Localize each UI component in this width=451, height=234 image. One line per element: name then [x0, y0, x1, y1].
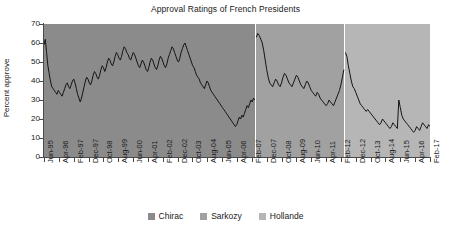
x-tick-mark	[163, 158, 164, 162]
chart-container: Approval Ratings of French Presidents Pe…	[0, 0, 451, 234]
x-tick-label: Apr-16	[418, 140, 426, 163]
x-tick-label: Jun-95	[47, 140, 55, 163]
x-tick-label: Dec-97	[92, 139, 100, 163]
x-tick-label: Oct-13	[374, 140, 382, 163]
x-tick-mark	[133, 158, 134, 162]
y-tick-mark	[39, 81, 43, 82]
x-tick-mark	[59, 158, 60, 162]
legend-label: Sarkozy	[211, 211, 242, 221]
approval-line-series	[44, 24, 430, 157]
x-tick-mark	[178, 158, 179, 162]
x-tick-label: Dec-12	[359, 139, 367, 163]
x-tick-mark	[148, 158, 149, 162]
x-tick-label: Aug-99	[121, 139, 129, 163]
x-tick-mark	[415, 158, 416, 162]
x-tick-label: Apr-11	[329, 141, 337, 163]
x-tick-mark	[222, 158, 223, 162]
legend-swatch-icon	[200, 213, 207, 220]
y-tick-label: 50	[16, 58, 40, 66]
x-tick-mark	[89, 158, 90, 162]
legend-item-chirac[interactable]: Chirac	[148, 211, 184, 221]
x-tick-label: Apr-96	[62, 140, 70, 163]
x-tick-label: Feb-97	[77, 139, 85, 163]
x-tick-mark	[356, 158, 357, 162]
legend-swatch-icon	[259, 213, 266, 220]
y-tick-mark	[39, 100, 43, 101]
legend-item-sarkozy[interactable]: Sarkozy	[200, 211, 242, 221]
y-tick-mark	[39, 43, 43, 44]
x-tick-label: Oct-08	[285, 140, 293, 163]
legend-item-hollande[interactable]: Hollande	[259, 211, 304, 221]
legend-label: Chirac	[159, 211, 184, 221]
x-tick-label: Feb-07	[255, 139, 263, 163]
y-axis-line	[43, 23, 44, 158]
plot-area	[44, 24, 430, 157]
y-tick-label: 60	[16, 39, 40, 47]
x-tick-mark	[237, 158, 238, 162]
x-tick-label: Aug-09	[299, 139, 307, 163]
y-axis-tick-labels: 706050403020100	[8, 0, 40, 234]
x-tick-label: Apr-01	[151, 140, 159, 163]
x-tick-label: Feb-17	[433, 139, 441, 163]
y-tick-mark	[39, 138, 43, 139]
series-line-sarkozy	[256, 34, 344, 106]
y-tick-label: 10	[16, 134, 40, 142]
y-tick-label: 30	[16, 96, 40, 104]
x-tick-label: Oct-03	[195, 140, 203, 163]
chart-legend: ChiracSarkozyHollande	[0, 211, 451, 221]
y-tick-mark	[39, 157, 43, 158]
x-tick-label: Feb-02	[166, 139, 174, 163]
legend-label: Hollande	[270, 211, 304, 221]
x-tick-label: Dec-02	[181, 139, 189, 163]
chart-title: Approval Ratings of French Presidents	[0, 4, 451, 14]
series-line-hollande	[345, 53, 430, 133]
x-tick-mark	[282, 158, 283, 162]
x-tick-label: Jun-15	[403, 140, 411, 163]
legend-swatch-icon	[148, 213, 155, 220]
y-tick-mark	[39, 24, 43, 25]
x-tick-mark	[371, 158, 372, 162]
y-tick-label: 20	[16, 115, 40, 123]
x-tick-label: Dec-07	[270, 139, 278, 163]
x-tick-label: Feb-12	[344, 139, 352, 163]
x-tick-label: Aug-04	[210, 139, 218, 163]
x-tick-mark	[74, 158, 75, 162]
x-tick-label: Jun-10	[314, 140, 322, 163]
x-tick-label: Oct-98	[106, 140, 114, 163]
y-tick-label: 0	[16, 153, 40, 161]
y-tick-label: 70	[16, 20, 40, 28]
x-tick-mark	[267, 158, 268, 162]
x-tick-mark	[341, 158, 342, 162]
x-tick-label: Jun-00	[136, 140, 144, 163]
y-tick-mark	[39, 62, 43, 63]
x-tick-mark	[326, 158, 327, 162]
x-tick-mark	[252, 158, 253, 162]
y-tick-label: 40	[16, 77, 40, 85]
y-tick-mark	[39, 119, 43, 120]
series-line-chirac	[44, 39, 255, 126]
x-tick-mark	[430, 158, 431, 162]
x-tick-label: Jun-05	[225, 140, 233, 163]
x-tick-label: Aug-14	[388, 139, 396, 163]
x-tick-mark	[44, 158, 45, 162]
x-tick-label: Apr-06	[240, 140, 248, 163]
